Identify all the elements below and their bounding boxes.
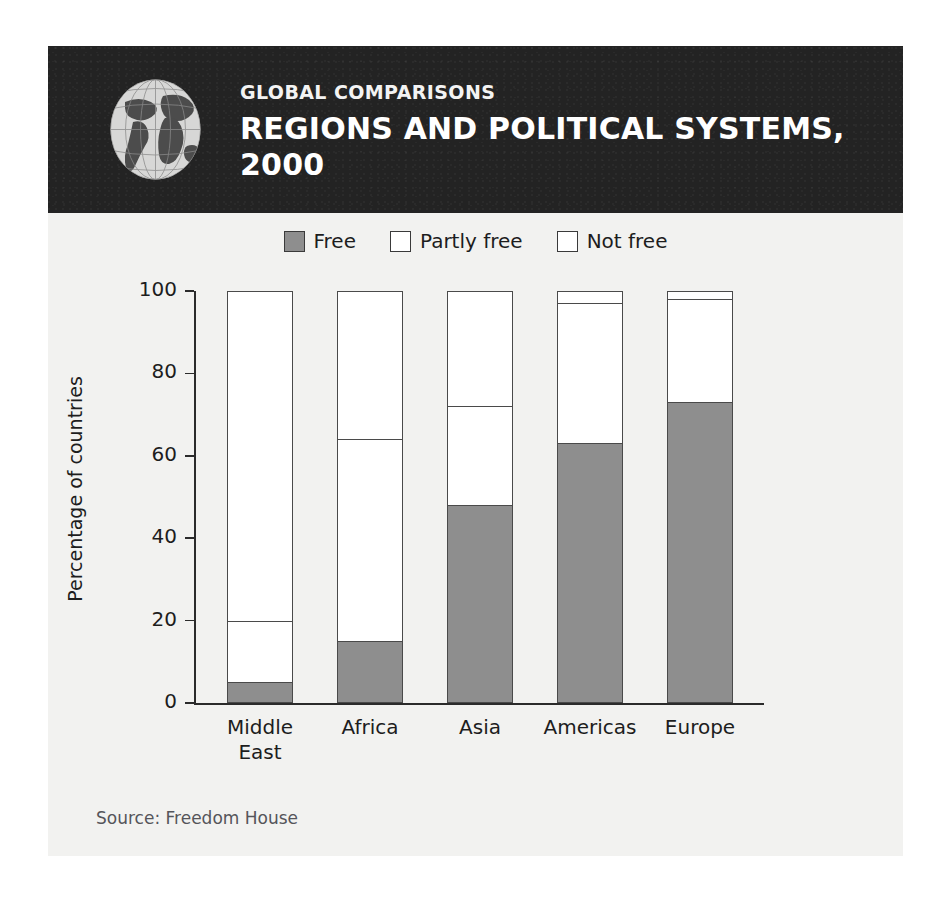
bar-segment-free[interactable] xyxy=(667,402,733,703)
y-tick-mark xyxy=(185,620,194,622)
stacked-bar[interactable] xyxy=(447,291,513,703)
bar-segment-partly-free[interactable] xyxy=(557,303,623,443)
source-note: Source: Freedom House xyxy=(96,808,298,828)
bar-segment-partly-free[interactable] xyxy=(227,621,293,683)
bar-segment-not-free[interactable] xyxy=(337,291,403,439)
y-tick-label: 100 xyxy=(121,277,177,301)
bar-segment-not-free[interactable] xyxy=(557,291,623,303)
bar-segment-free[interactable] xyxy=(227,682,293,703)
y-tick-label: 40 xyxy=(121,524,177,548)
y-tick-label: 80 xyxy=(121,359,177,383)
y-tick-mark xyxy=(185,373,194,375)
chart-page: GLOBAL COMPARISONS REGIONS AND POLITICAL… xyxy=(0,0,952,901)
stacked-bar[interactable] xyxy=(337,291,403,703)
x-tick-label: Europe xyxy=(635,715,765,740)
y-axis-title: Percentage of countries xyxy=(64,359,86,619)
bar-segment-not-free[interactable] xyxy=(447,291,513,406)
y-tick-label: 0 xyxy=(121,689,177,713)
x-axis-line xyxy=(194,703,764,705)
bar-segment-partly-free[interactable] xyxy=(667,299,733,402)
x-tick-label-line: Europe xyxy=(635,715,765,740)
y-tick-mark xyxy=(185,455,194,457)
bar-segment-partly-free[interactable] xyxy=(447,406,513,505)
bar-segment-free[interactable] xyxy=(447,505,513,703)
plot-area: Percentage of countries 020406080100 Mid… xyxy=(48,46,903,856)
y-tick-label: 20 xyxy=(121,607,177,631)
y-tick-mark xyxy=(185,537,194,539)
y-tick-mark xyxy=(185,702,194,704)
stacked-bar[interactable] xyxy=(227,291,293,703)
bar-segment-not-free[interactable] xyxy=(667,291,733,299)
stacked-bar[interactable] xyxy=(557,291,623,703)
bar-segment-free[interactable] xyxy=(557,443,623,703)
y-tick-label: 60 xyxy=(121,442,177,466)
y-axis-line xyxy=(194,291,196,703)
bar-segment-not-free[interactable] xyxy=(227,291,293,621)
x-tick-label-line: East xyxy=(195,740,325,765)
stacked-bar[interactable] xyxy=(667,291,733,703)
figure-panel: GLOBAL COMPARISONS REGIONS AND POLITICAL… xyxy=(48,46,903,856)
y-tick-mark xyxy=(185,290,194,292)
bar-segment-partly-free[interactable] xyxy=(337,439,403,641)
bar-segment-free[interactable] xyxy=(337,641,403,703)
